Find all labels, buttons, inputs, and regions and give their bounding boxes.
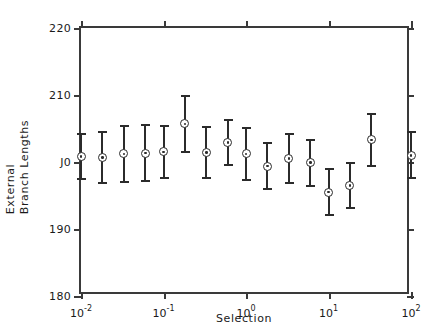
x-axis-label: Selection xyxy=(79,312,409,325)
error-bar-cap-lower xyxy=(346,207,355,209)
y-axis-tick xyxy=(74,296,81,298)
error-bar-cap-upper xyxy=(98,131,107,133)
error-bar-cap-lower xyxy=(325,214,334,216)
error-bar-cap-upper xyxy=(160,125,169,127)
y-axis-label-line-1: External xyxy=(4,119,17,213)
y-axis-tick-right xyxy=(407,28,414,30)
error-bar-cap-lower xyxy=(285,182,294,184)
data-point-marker xyxy=(159,147,168,156)
x-axis-tick xyxy=(81,292,83,299)
error-bar-cap-upper xyxy=(346,162,355,164)
error-bar-cap-upper xyxy=(263,142,272,144)
error-bar-cap-lower xyxy=(120,181,129,183)
y-axis-tick-label: 190 xyxy=(49,223,71,236)
data-point-marker xyxy=(345,181,354,190)
x-axis-tick-top xyxy=(246,21,248,28)
error-bar-cap-upper xyxy=(242,127,251,129)
data-point-marker xyxy=(284,154,293,163)
error-bar-cap-lower xyxy=(77,178,86,180)
error-bar-cap-lower xyxy=(160,177,169,179)
error-bar-cap-lower xyxy=(242,179,251,181)
error-bar-cap-lower xyxy=(98,182,107,184)
x-axis-tick xyxy=(411,292,413,299)
data-point-marker xyxy=(77,152,86,161)
error-bar-cap-lower xyxy=(407,177,416,179)
y-axis-tick-label: 180 xyxy=(49,290,71,303)
error-bar-cap-upper xyxy=(285,133,294,135)
data-point-marker xyxy=(263,162,272,171)
data-point-marker xyxy=(306,158,315,167)
x-axis-tick-top xyxy=(164,21,166,28)
y-axis-tick-right xyxy=(407,229,414,231)
error-bar-cap-upper xyxy=(120,125,129,127)
data-point-marker xyxy=(324,188,333,197)
x-axis-tick-top xyxy=(81,21,83,28)
error-bar-cap-lower xyxy=(263,188,272,190)
error-bar-cap-upper xyxy=(77,133,86,135)
data-point-marker xyxy=(98,153,107,162)
y-axis-tick xyxy=(74,229,81,231)
error-bar-cap-lower xyxy=(367,165,376,167)
y-axis-tick xyxy=(74,28,81,30)
error-bar-cap-lower xyxy=(306,185,315,187)
y-axis-tick xyxy=(74,95,81,97)
y-axis-tick-label: 220 xyxy=(49,22,71,35)
plot-area: 220210J019018010-210-1100101102 xyxy=(79,26,409,294)
error-bar-cap-upper xyxy=(306,139,315,141)
error-bar-cap-upper xyxy=(181,95,190,97)
error-bar-cap-upper xyxy=(367,113,376,115)
data-point-marker xyxy=(202,148,211,157)
x-axis-tick-top xyxy=(411,21,413,28)
x-axis-tick xyxy=(246,292,248,299)
y-axis-tick-label: J0 xyxy=(60,156,71,169)
data-point-marker xyxy=(223,138,232,147)
y-axis-tick-right xyxy=(407,95,414,97)
error-bar-cap-upper xyxy=(325,168,334,170)
error-bar-cap-lower xyxy=(181,151,190,153)
data-point-marker xyxy=(180,119,189,128)
error-bar-cap-lower xyxy=(224,164,233,166)
y-axis-tick-label: 210 xyxy=(49,89,71,102)
error-bar-cap-upper xyxy=(407,131,416,133)
data-point-marker xyxy=(407,151,416,160)
data-point-marker xyxy=(119,149,128,158)
x-axis-tick-top xyxy=(329,21,331,28)
x-axis-tick xyxy=(164,292,166,299)
y-axis-label-line-2: Branch Lengths xyxy=(18,119,31,213)
data-point-marker xyxy=(242,149,251,158)
chart-figure: External Branch Lengths 220210J019018010… xyxy=(0,0,433,333)
x-tick-exponent: 2 xyxy=(415,304,420,313)
error-bar-cap-upper xyxy=(141,124,150,126)
error-bar-cap-lower xyxy=(202,177,211,179)
error-bar-cap-upper xyxy=(202,126,211,128)
data-point-marker xyxy=(141,149,150,158)
y-axis-label: External Branch Lengths xyxy=(4,119,31,213)
error-bar-cap-lower xyxy=(141,180,150,182)
x-axis-tick xyxy=(329,292,331,299)
error-bar-cap-upper xyxy=(224,119,233,121)
data-point-marker xyxy=(367,135,376,144)
